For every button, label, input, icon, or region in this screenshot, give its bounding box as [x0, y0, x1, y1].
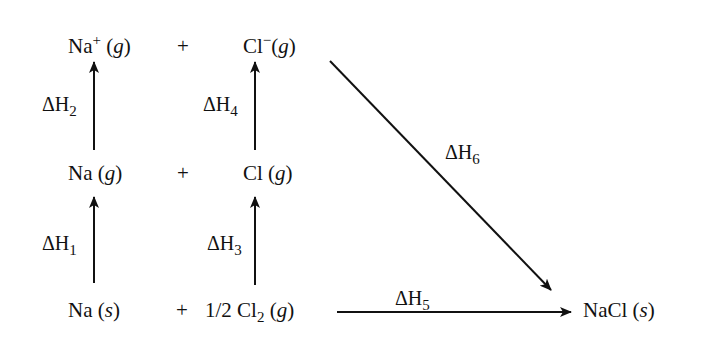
arrow-dh6 — [330, 61, 551, 290]
label-dh1: ΔH1 — [42, 233, 77, 253]
label-dh4: ΔH4 — [203, 94, 238, 114]
label-dh6: ΔH6 — [445, 142, 480, 162]
plus-sign-row2: + — [177, 163, 189, 184]
species-na-gas: Na (g) — [68, 163, 122, 184]
label-dh2: ΔH2 — [42, 94, 77, 114]
species-nacl-solid: NaCl (s) — [583, 300, 655, 321]
plus-sign-row3: + — [176, 300, 188, 321]
plus-sign-row1: + — [177, 36, 189, 57]
species-cl-gas: Cl (g) — [243, 163, 293, 184]
label-dh3: ΔH3 — [207, 233, 242, 253]
species-na-ion-gas: Na+ (g) — [68, 36, 131, 57]
species-cl-ion-gas: Cl−(g) — [243, 36, 296, 57]
species-cl2-gas: 1/2 Cl2 (g) — [205, 300, 294, 321]
species-na-solid: Na (s) — [68, 300, 120, 321]
label-dh5: ΔH5 — [395, 288, 430, 308]
